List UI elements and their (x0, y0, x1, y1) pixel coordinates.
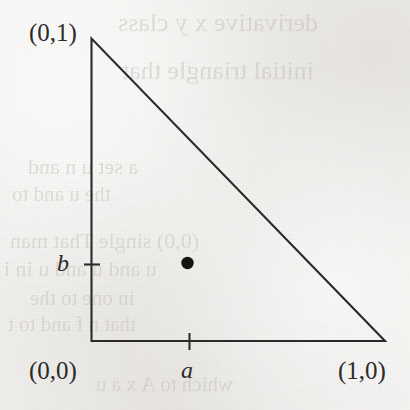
vertex-label-bottom-left: (0,0) (29, 357, 77, 385)
axis-label-b: b (57, 250, 69, 277)
axis-label-a: a (181, 357, 193, 384)
triangle-diagram (0, 0, 410, 410)
vertex-label-top-left: (0,1) (29, 19, 77, 47)
figure-canvas: derivative x y class initial triangle th… (0, 0, 410, 410)
unit-triangle-outline (92, 39, 386, 342)
interior-point-ab (181, 257, 193, 269)
vertex-label-bottom-right: (1,0) (338, 357, 386, 385)
